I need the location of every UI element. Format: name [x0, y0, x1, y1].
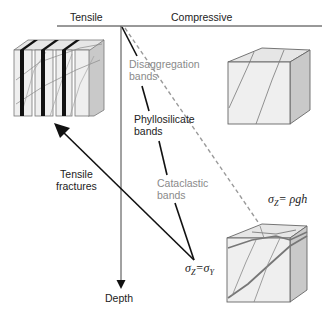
disaggregation-label-line2: bands — [129, 70, 200, 82]
lithostatic-equation: σZ= ρgh — [268, 193, 307, 210]
depth-arrowhead-icon — [117, 280, 126, 289]
band-trend-line-3 — [159, 141, 167, 175]
band-trend-line-2 — [142, 86, 149, 111]
rho-g-h: = ρgh — [278, 192, 307, 206]
phyllosilicate-bands-label: Phyllosilicate bands — [134, 113, 195, 137]
cataclastic-bands-label: Cataclastic bands — [157, 177, 208, 201]
deformation-band-diagram: Tensile Compressive Depth Disaggregation… — [0, 0, 332, 312]
tensile-axis-label: Tensile — [70, 11, 103, 23]
tensile-fractures-line1: Tensile — [56, 168, 97, 180]
diagram-canvas — [0, 0, 332, 312]
yield-equation: σZ=σY — [185, 262, 214, 279]
tensile-fractures-line2: fractures — [56, 180, 97, 192]
depth-axis-label: Depth — [105, 292, 133, 304]
cataclastic-label-line1: Cataclastic — [157, 177, 208, 189]
cataclastic-banded-cube-icon — [227, 224, 307, 302]
tensile-fractures-label: Tensile fractures — [56, 168, 97, 192]
phyllosilicate-label-line1: Phyllosilicate — [134, 113, 195, 125]
disaggregation-label-line1: Disaggregation — [129, 58, 200, 70]
compressive-axis-label: Compressive — [171, 11, 232, 23]
disaggregation-banded-cube-icon — [228, 48, 310, 124]
y-subscript: Y — [209, 268, 213, 277]
cataclastic-label-line2: bands — [157, 189, 208, 201]
phyllosilicate-label-line2: bands — [134, 125, 195, 137]
disaggregation-bands-label: Disaggregation bands — [129, 58, 200, 82]
tensile-fractured-block-icon — [14, 40, 104, 116]
